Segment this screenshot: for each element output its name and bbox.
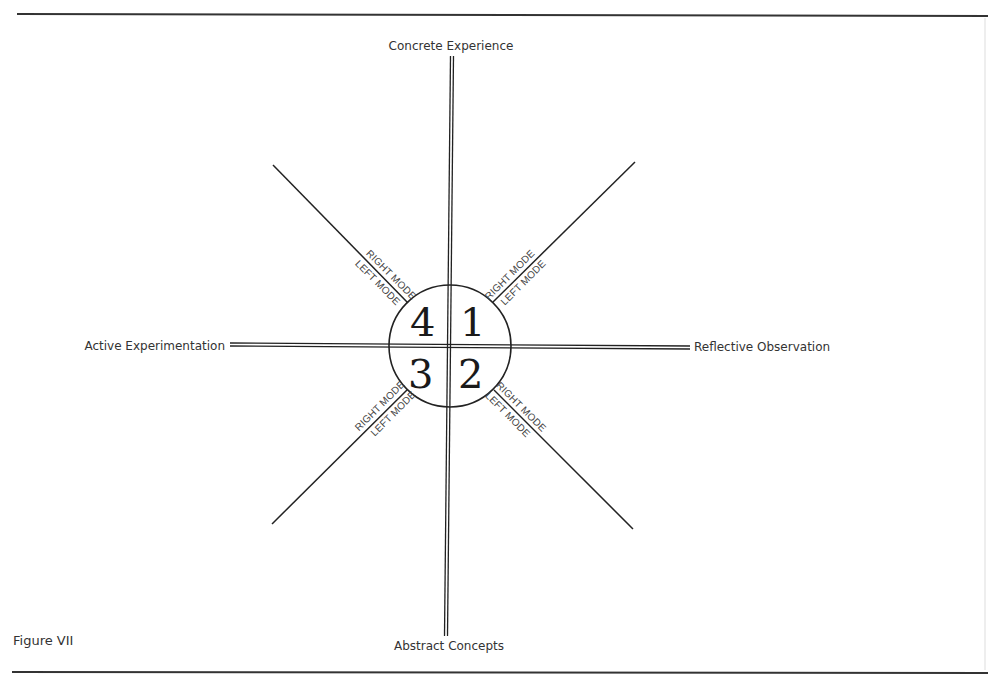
axis-label-right: Reflective Observation [694,340,830,354]
axis-label-bottom: Abstract Concepts [394,639,504,653]
diagonal-lower-left [272,390,407,524]
quadrant-3-label: 3 [408,351,433,397]
figure-caption: Figure VII [13,633,73,648]
top-rule [17,14,988,16]
quadrant-1-label: 1 [460,299,485,345]
diagonal-upper-left [273,165,408,303]
diagonal-upper-right [493,162,635,302]
quadrant-4-label: 4 [410,299,435,345]
diagonal-lower-right [494,390,633,529]
axis-label-left: Active Experimentation [84,339,225,353]
axis-label-top: Concrete Experience [389,39,514,53]
vertical-axis [445,56,454,636]
bottom-rule [12,672,988,673]
quadrant-2-label: 2 [458,351,483,397]
learning-cycle-diagram: 1 2 3 4 Concrete Experience Abstract Con… [0,0,988,682]
